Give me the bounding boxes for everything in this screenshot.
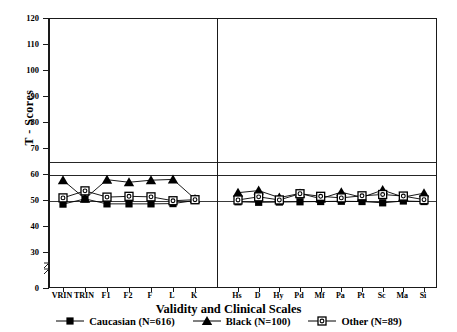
y-tick-label: 100 — [5, 66, 39, 75]
y-tick-label: 80 — [5, 118, 39, 127]
x-tick-label-K: K — [174, 292, 214, 300]
legend-label: Other (N=89) — [341, 316, 401, 327]
y-tick-label: 110 — [5, 40, 39, 49]
series-1 — [58, 174, 429, 203]
plot-area — [49, 18, 437, 288]
legend-label: Caucasian (N=616) — [89, 316, 175, 327]
y-tick-label: 90 — [5, 92, 39, 101]
y-tick-label: 50 — [5, 196, 39, 205]
y-tick-label: 30 — [5, 248, 39, 257]
chart-legend: Caucasian (N=616)Black (N=100)Other (N=8… — [0, 315, 457, 327]
legend-label: Black (N=100) — [226, 316, 291, 327]
legend-item-2[interactable]: Other (N=89) — [307, 315, 401, 327]
legend-item-0[interactable]: Caucasian (N=616) — [55, 315, 175, 327]
y-tick-label: 60 — [5, 170, 39, 179]
legend-symbol-filled-triangle — [192, 315, 222, 327]
data-series-layer — [50, 19, 438, 289]
y-tick-label: 70 — [5, 144, 39, 153]
y-tick-label: 120 — [5, 14, 39, 23]
y-tick-label: 0 — [5, 284, 39, 293]
legend-symbol-open-square — [307, 315, 337, 327]
chart-root: T - Scores 030405060708090100110120 VRIN… — [0, 0, 457, 332]
legend-item-1[interactable]: Black (N=100) — [192, 315, 291, 327]
legend-symbol-filled-square — [55, 315, 85, 327]
y-tick-label: 40 — [5, 222, 39, 231]
x-tick-label-Si: Si — [403, 292, 443, 300]
y-tick — [43, 288, 49, 289]
